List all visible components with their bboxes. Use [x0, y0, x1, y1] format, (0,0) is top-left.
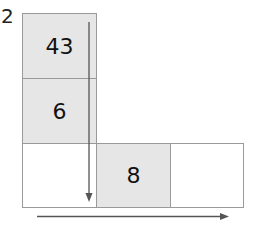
arrows-layer — [0, 0, 253, 229]
right-arrow-icon — [37, 213, 229, 220]
down-arrow-icon — [86, 22, 93, 202]
